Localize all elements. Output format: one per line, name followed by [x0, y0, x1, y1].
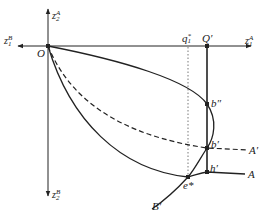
label-z1A-indices: A1: [249, 36, 253, 48]
curve-O-hprime-A: [48, 46, 245, 177]
label-Qprime: Q′: [202, 33, 212, 44]
label-z1A-sub: 1: [249, 40, 253, 48]
label-q1star-sub: 1: [188, 37, 192, 45]
label-origin: O: [37, 48, 45, 59]
label-B-prime: B′: [152, 201, 161, 212]
point-Qprime: [205, 44, 209, 48]
label-z2A-indices: A2: [56, 11, 60, 23]
label-z2B: zB2: [52, 190, 60, 202]
label-A: A: [248, 169, 255, 180]
label-z1B: zB1: [4, 36, 12, 48]
label-e-star: e*: [183, 180, 193, 191]
label-h-prime: h′: [210, 163, 218, 174]
label-A-prime: A′: [249, 145, 258, 156]
label-q1star: q*1: [182, 33, 191, 45]
label-z1A: zA1: [245, 36, 253, 48]
edgeworth-diagram: [0, 0, 267, 214]
label-z2A: zA2: [52, 11, 60, 23]
point-origin: [46, 44, 50, 48]
point-b-prime: [205, 146, 209, 150]
point-h-prime: [205, 170, 209, 174]
label-z1B-sub: 1: [8, 40, 12, 48]
label-b-prime: b′: [211, 139, 219, 150]
label-z2B-sub: 2: [56, 194, 60, 202]
label-q1star-indices: *1: [188, 34, 192, 46]
point-b-double-prime: [205, 102, 209, 106]
label-b-double-prime: b″: [211, 98, 221, 109]
label-z2B-indices: B2: [56, 190, 60, 202]
label-z2A-sub: 2: [56, 15, 60, 23]
label-z1B-indices: B1: [8, 36, 12, 48]
